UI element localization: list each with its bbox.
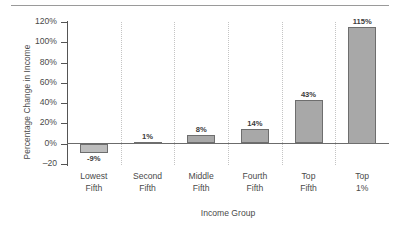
y-tick-label: 80%: [0, 57, 57, 67]
y-tick-label: 100%: [0, 36, 57, 46]
bar-value-label: 1%: [126, 132, 170, 141]
x-tick-label-line: Fifth: [171, 183, 231, 195]
y-tick-label: 0%: [0, 138, 57, 148]
x-tick-label-line: Second: [118, 171, 178, 183]
bar-value-label: 8%: [179, 125, 223, 134]
bar-value-label: 115%: [340, 17, 384, 26]
y-tick-label: –20: [0, 158, 57, 168]
bar-chart-figure: Percentage Change in Income 120%100%80%6…: [0, 0, 398, 232]
x-tick-label-line: Fifth: [118, 183, 178, 195]
x-tick-label-line: Fifth: [279, 183, 339, 195]
y-tick-mark: [61, 123, 67, 124]
x-tick-label: LowestFifth: [64, 171, 124, 194]
y-tick-label: 120%: [0, 16, 57, 26]
x-tick-label: Top1%: [332, 171, 392, 194]
bar: [80, 144, 108, 153]
vertical-grid-line: [335, 22, 336, 165]
bar: [348, 27, 376, 143]
vertical-grid-line: [282, 22, 283, 165]
bar-value-label: -9%: [72, 154, 116, 163]
y-tick-label: 20%: [0, 117, 57, 127]
y-tick-mark: [61, 164, 67, 165]
y-tick-mark: [61, 144, 67, 145]
x-tick-label-line: Fifth: [225, 183, 285, 195]
x-tick-label: FourthFifth: [225, 171, 285, 194]
y-axis-line: [67, 21, 68, 166]
x-tick-label: TopFifth: [279, 171, 339, 194]
y-tick-mark: [61, 83, 67, 84]
bar: [134, 142, 162, 144]
y-tick-mark: [61, 22, 67, 23]
bar-value-label: 43%: [287, 90, 331, 99]
x-tick-label-line: 1%: [332, 183, 392, 195]
x-tick-label-line: Fifth: [64, 183, 124, 195]
y-tick-mark: [61, 63, 67, 64]
vertical-grid-line: [228, 22, 229, 165]
vertical-grid-line: [174, 22, 175, 165]
y-tick-mark: [61, 42, 67, 43]
bar: [187, 135, 215, 143]
vertical-grid-line: [121, 22, 122, 165]
x-tick-label: MiddleFifth: [171, 171, 231, 194]
x-tick-label-line: Top: [332, 171, 392, 183]
x-tick-label-line: Lowest: [64, 171, 124, 183]
x-tick-label-line: Top: [279, 171, 339, 183]
bar-value-label: 14%: [233, 119, 277, 128]
bar: [295, 100, 323, 144]
x-tick-label-line: Fourth: [225, 171, 285, 183]
x-tick-label: SecondFifth: [118, 171, 178, 194]
x-axis-title: Income Group: [67, 208, 389, 218]
y-tick-mark: [61, 103, 67, 104]
y-tick-label: 60%: [0, 77, 57, 87]
bar: [241, 129, 269, 143]
x-tick-label-line: Middle: [171, 171, 231, 183]
y-tick-label: 40%: [0, 97, 57, 107]
